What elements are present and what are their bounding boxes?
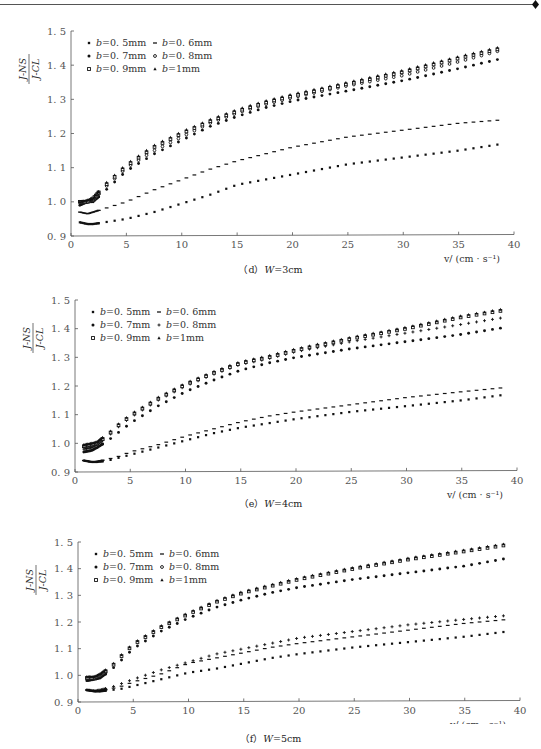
- y-axis-label: J-NSJ-CL: [21, 323, 45, 353]
- y-tick-label: 1. 4: [47, 60, 66, 71]
- data-series: [82, 310, 501, 448]
- y-tick-label: 1. 1: [47, 162, 66, 173]
- x-tick-label: 0: [68, 239, 74, 250]
- caption-value: =3cm: [274, 264, 302, 275]
- caption-prefix: （d）: [238, 264, 264, 275]
- y-label-denominator: J-CL: [30, 59, 41, 82]
- y-tick-label: 1. 0: [54, 670, 73, 681]
- y-label-numerator: J-NS: [21, 327, 32, 351]
- x-tick-label: 10: [182, 705, 195, 716]
- y-tick-label: 0. 9: [51, 467, 70, 478]
- y-tick-label: 1. 2: [47, 128, 66, 139]
- y-tick-label: 1. 5: [47, 26, 66, 37]
- legend-marker-icon: [160, 553, 164, 554]
- x-tick-label: 30: [403, 705, 416, 716]
- y-tick-label: 1. 1: [54, 643, 73, 654]
- legend-label: b=1mm: [162, 63, 200, 74]
- legend-marker-icon: [154, 55, 157, 58]
- x-tick-label: 35: [458, 705, 471, 716]
- legend-label: b=0. 7mm: [103, 561, 153, 572]
- y-tick-label: 1. 3: [54, 590, 73, 601]
- data-series: [85, 619, 505, 692]
- y-tick-label: 1. 2: [51, 381, 70, 392]
- y-tick-label: 1. 1: [51, 409, 70, 420]
- y-tick-label: 1. 3: [47, 94, 66, 105]
- legend-label: b=0. 7mm: [96, 50, 146, 61]
- x-tick-label: 20: [290, 475, 303, 486]
- y-label-numerator: J-NS: [24, 569, 35, 593]
- y-tick-label: 1. 2: [54, 617, 73, 628]
- legend-marker-icon: [95, 553, 97, 555]
- chart-f: 0. 91. 01. 11. 21. 31. 41. 5051015202530…: [0, 524, 541, 724]
- chart-d: 0. 91. 01. 11. 21. 31. 41. 5051015202530…: [0, 18, 541, 280]
- legend-marker-icon: [157, 311, 161, 312]
- legend-marker-icon: [88, 42, 90, 44]
- legend-label: b=0. 8mm: [162, 50, 212, 61]
- x-tick-label: 35: [452, 239, 465, 250]
- caption-variable: W: [264, 264, 274, 275]
- x-tick-label: 15: [234, 475, 247, 486]
- legend-marker-icon: [91, 323, 94, 326]
- x-tick-label: 5: [123, 239, 129, 250]
- caption-variable: W: [264, 498, 274, 509]
- x-tick-label: 40: [514, 705, 527, 716]
- legend-marker-icon: [160, 578, 163, 581]
- caption-d: （d）W=3cm: [0, 262, 541, 276]
- y-tick-label: 1. 0: [51, 438, 70, 449]
- page-corner-marker-icon: [532, 0, 539, 9]
- y-tick-label: 1. 5: [51, 295, 70, 306]
- x-tick-label: 10: [179, 475, 192, 486]
- x-tick-label: 40: [508, 239, 521, 250]
- legend-label: b=0. 6mm: [166, 306, 216, 317]
- caption-e: （e）W=4cm: [0, 496, 541, 510]
- x-tick-label: 15: [231, 239, 244, 250]
- legend-label: b=1mm: [166, 332, 204, 343]
- chart-e: 0. 91. 01. 11. 21. 31. 41. 5051015202530…: [0, 282, 541, 518]
- legend-marker-icon: [157, 336, 160, 339]
- legend: b=0. 5mmb=0. 6mmb=0. 7mmb=0. 8mmb=0. 9mm…: [87, 37, 212, 74]
- legend-marker-icon: [88, 68, 91, 71]
- x-tick-label: 25: [348, 705, 361, 716]
- legend-marker-icon: [94, 565, 97, 568]
- x-tick-label: 5: [127, 475, 133, 486]
- x-tick-label: 15: [237, 705, 250, 716]
- legend-label: b=0. 9mm: [103, 574, 153, 585]
- legend-label: b=1mm: [169, 574, 207, 585]
- caption-prefix: （e）: [239, 498, 265, 509]
- data-series: [86, 631, 505, 693]
- y-tick-label: 1. 5: [54, 537, 73, 548]
- data-series: [79, 143, 499, 225]
- x-tick-label: 0: [75, 705, 81, 716]
- legend-label: b=0. 6mm: [162, 37, 212, 48]
- caption-value: =4cm: [274, 498, 302, 509]
- x-tick-label: 40: [511, 475, 524, 486]
- legend-marker-icon: [153, 67, 156, 70]
- legend-label: b=0. 5mm: [100, 306, 150, 317]
- x-tick-label: 5: [130, 705, 136, 716]
- y-tick-label: 1. 4: [54, 563, 73, 574]
- legend-marker-icon: [161, 566, 164, 569]
- legend-marker-icon: [153, 42, 157, 43]
- x-tick-label: 10: [175, 239, 188, 250]
- legend-label: b=0. 7mm: [100, 319, 150, 330]
- legend-marker-icon: [92, 311, 94, 313]
- caption-value: =5cm: [273, 733, 301, 744]
- caption-f: （f）W=5cm: [0, 731, 541, 745]
- data-series: [83, 394, 502, 463]
- y-tick-label: 1. 0: [47, 196, 66, 207]
- legend-label: b=0. 5mm: [103, 548, 153, 559]
- legend-label: b=0. 9mm: [96, 63, 146, 74]
- legend-marker-icon: [87, 54, 90, 57]
- data-series: [85, 614, 505, 692]
- y-label-numerator: J-NS: [17, 58, 28, 82]
- x-tick-label: 20: [293, 705, 306, 716]
- x-axis-label: v/ (cm · s⁻¹): [449, 719, 506, 724]
- legend-label: b=0. 9mm: [100, 332, 150, 343]
- x-tick-label: 30: [400, 475, 413, 486]
- legend-label: b=0. 8mm: [166, 319, 216, 330]
- data-series: [82, 327, 501, 454]
- legend-marker-icon: [95, 579, 98, 582]
- x-tick-label: 20: [286, 239, 299, 250]
- running-header: · · · · · · ·: [365, 0, 411, 3]
- legend-label: b=0. 5mm: [96, 37, 146, 48]
